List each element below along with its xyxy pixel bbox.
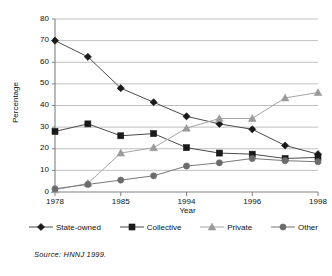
data-point-marker [216, 150, 222, 156]
data-point-marker [216, 160, 222, 166]
data-point-marker [52, 186, 58, 192]
y-tick-label: 20 [25, 143, 49, 152]
y-tick-label: 10 [25, 165, 49, 174]
x-axis-title: Year [55, 206, 320, 215]
legend-label: Private [227, 223, 252, 232]
y-tick-label: 60 [25, 57, 49, 66]
data-point-marker [129, 224, 135, 230]
legend-item-collective[interactable]: Collective [119, 222, 182, 232]
data-point-marker [85, 121, 91, 127]
y-tick-label: 30 [25, 122, 49, 131]
data-point-marker [183, 113, 190, 120]
axes [52, 19, 318, 196]
data-point-marker [151, 131, 157, 137]
series-private [51, 89, 322, 193]
legend-label: Collective [147, 223, 182, 232]
legend-item-state-owned[interactable]: State-owned [28, 222, 101, 232]
data-point-marker [183, 163, 189, 169]
legend-item-private[interactable]: Private [199, 222, 252, 232]
data-point-marker [51, 37, 58, 44]
source-note: Source: HNNJ 1999. [34, 250, 106, 259]
data-point-marker [85, 181, 91, 187]
x-tick-label: 1978 [35, 197, 75, 206]
data-point-marker [118, 177, 124, 183]
data-point-marker [282, 142, 289, 149]
legend-label: State-owned [56, 223, 101, 232]
y-tick-label: 0 [25, 187, 49, 196]
chart-figure: Percentage Year 01020304050607080 197819… [0, 0, 332, 276]
data-point-marker [315, 159, 321, 165]
y-tick-label: 40 [25, 100, 49, 109]
data-point-marker [118, 133, 124, 139]
data-point-marker [249, 155, 255, 161]
data-point-marker [280, 224, 286, 230]
triangle-marker-icon [199, 222, 225, 232]
data-point-marker [150, 99, 157, 106]
data-point-marker [184, 145, 190, 151]
legend-item-other[interactable]: Other [270, 222, 318, 232]
square-marker-icon [119, 222, 145, 232]
legend-label: Other [298, 223, 318, 232]
y-tick-label: 80 [25, 14, 49, 23]
x-tick-label: 1985 [101, 197, 141, 206]
data-point-marker [314, 89, 322, 96]
data-point-marker [282, 158, 288, 164]
data-point-marker [52, 128, 58, 134]
plot-area [0, 0, 332, 276]
data-point-marker [37, 223, 44, 230]
circle-marker-icon [270, 222, 296, 232]
y-axis-title: Percentage [11, 68, 20, 138]
data-point-marker [151, 173, 157, 179]
diamond-marker-icon [28, 222, 54, 232]
series-state-owned [51, 37, 321, 158]
x-tick-label: 1994 [167, 197, 207, 206]
chart-legend: State-ownedCollectivePrivateOther [28, 222, 318, 232]
series-other [52, 155, 321, 191]
x-tick-label: 1998 [298, 197, 332, 206]
y-tick-label: 70 [25, 35, 49, 44]
y-tick-label: 50 [25, 78, 49, 87]
x-tick-label: 1996 [232, 197, 272, 206]
data-point-marker [150, 144, 158, 151]
